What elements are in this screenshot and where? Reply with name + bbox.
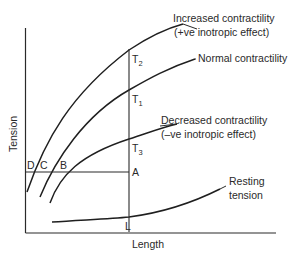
y-axis-label: Tension	[7, 116, 19, 152]
resting-tension-label: Resting tension	[229, 175, 268, 201]
increased-contractility-curve	[27, 24, 183, 192]
point-d-label: D	[27, 159, 35, 171]
point-t3-label: T3	[132, 142, 143, 157]
decreased-contractility-curve	[50, 124, 177, 203]
length-tension-diagram: Tension Length Increased contractility (…	[0, 0, 300, 262]
point-l-label: L	[125, 220, 131, 232]
point-t1-label: T1	[132, 93, 143, 108]
point-c-label: C	[40, 159, 48, 171]
resting-label-line1: Resting	[229, 175, 265, 187]
resting-label-line2: tension	[229, 189, 263, 201]
decreased-label-line1: Decreased contractility	[161, 114, 268, 126]
resting-tension-curve	[52, 189, 220, 222]
increased-label-line2: (+ve inotropic effect)	[174, 26, 269, 38]
decreased-label-line2: (–ve inotropic effect)	[161, 128, 256, 140]
increased-label-line1: Increased contractility	[173, 12, 275, 24]
increased-contractility-label: Increased contractility (+ve inotropic e…	[173, 12, 277, 38]
decreased-contractility-label: Decreased contractility (–ve inotropic e…	[161, 114, 270, 140]
point-a-label: A	[132, 166, 139, 178]
point-t2-label: T2	[132, 53, 143, 68]
resting-leader	[220, 186, 226, 189]
x-axis-label: Length	[132, 238, 164, 250]
normal-contractility-label: Normal contractility	[198, 52, 288, 64]
point-b-label: B	[60, 159, 67, 171]
